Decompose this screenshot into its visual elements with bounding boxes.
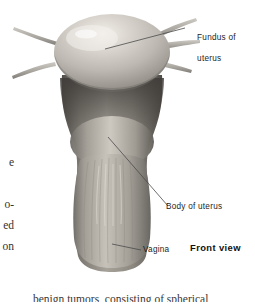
label-front-view: Front view [190, 243, 241, 254]
figure-page: e o- ed on [0, 0, 255, 305]
bottom-caption-text: benign tumors, consisting of spherical [33, 293, 248, 302]
fundus-highlight [66, 25, 118, 51]
fundus-highlight-spec [75, 30, 97, 39]
label-fundus-of-uterus: Fundus of uterus [187, 22, 236, 75]
label-fundus-line2: uterus [197, 54, 221, 63]
label-body-of-uterus: Body of uterus [166, 202, 222, 213]
label-fundus-line1: Fundus of [197, 33, 236, 42]
label-vagina: Vagina [143, 245, 169, 256]
ligament-left-group [12, 27, 58, 79]
